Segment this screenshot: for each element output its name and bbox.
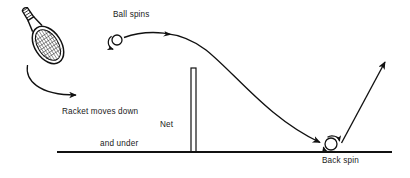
ball-after-bounce [323, 136, 339, 153]
ball-flight-path [124, 33, 320, 143]
label-racket-moves-line2: and under [62, 139, 138, 150]
label-racket-moves: Racket moves down and under [62, 86, 138, 170]
net [191, 68, 196, 152]
label-net: Net [160, 120, 173, 131]
racket-icon [13, 1, 70, 69]
ball-at-contact [108, 35, 122, 49]
rebound-arrow [342, 62, 386, 143]
label-racket-moves-line1: Racket moves down [62, 107, 138, 118]
diagram-canvas: Ball spins Racket moves down and under N… [0, 0, 410, 178]
label-back-spin: Back spin [322, 156, 359, 167]
label-ball-spins: Ball spins [113, 10, 150, 21]
